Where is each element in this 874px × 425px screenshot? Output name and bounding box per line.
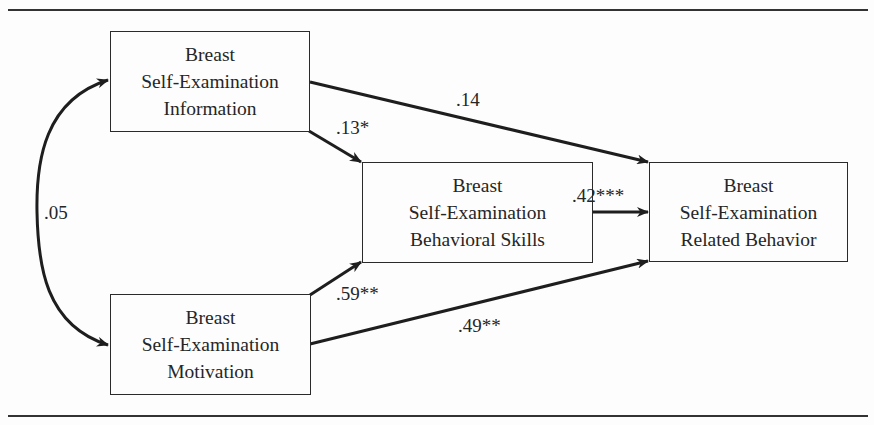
coef-information-skills: .13* [336,118,369,137]
coef-skills-behavior: .42*** [572,186,624,205]
coef-information-behavior: .14 [456,90,480,109]
node-information: Breast Self-Examination Information [110,31,310,132]
coef-correlation: .05 [44,203,68,222]
node-behavior: Breast Self-Examination Related Behavior [649,162,848,262]
node-information-line-1: Breast [185,41,235,68]
node-skills: Breast Self-Examination Behavioral Skill… [362,162,593,263]
node-skills-line-2: Self-Examination [409,199,547,226]
node-motivation: Breast Self-Examination Motivation [110,294,311,395]
node-skills-line-3: Behavioral Skills [410,226,545,253]
node-behavior-line-1: Breast [724,172,774,199]
node-motivation-line-3: Motivation [167,358,254,385]
node-information-line-2: Self-Examination [141,68,279,95]
node-behavior-line-2: Self-Examination [680,199,818,226]
node-skills-line-1: Breast [453,172,503,199]
coef-motivation-skills: .59** [336,284,379,303]
node-motivation-line-1: Breast [186,304,236,331]
coef-motivation-behavior: .49** [458,316,501,335]
node-behavior-line-3: Related Behavior [681,226,817,253]
node-information-line-3: Information [163,95,256,122]
node-motivation-line-2: Self-Examination [142,331,280,358]
